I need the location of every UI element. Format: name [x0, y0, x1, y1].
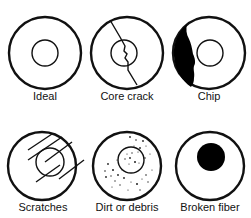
fiber-diagram	[0, 0, 251, 218]
core-crack-icon	[91, 17, 163, 89]
label-ideal: Ideal	[0, 90, 90, 102]
label-dirt-debris: Dirt or debris	[82, 201, 172, 213]
label-chip: Chip	[164, 90, 251, 102]
label-broken-fiber: Broken fiber	[165, 201, 251, 213]
dirt-debris-icon	[93, 132, 161, 200]
label-core-crack: Core crack	[82, 90, 172, 102]
chip-icon	[173, 17, 245, 89]
ideal-fiber-icon	[9, 17, 81, 89]
broken-fiber-icon	[176, 132, 244, 200]
scratches-icon	[8, 132, 84, 200]
label-scratches: Scratches	[0, 201, 88, 213]
